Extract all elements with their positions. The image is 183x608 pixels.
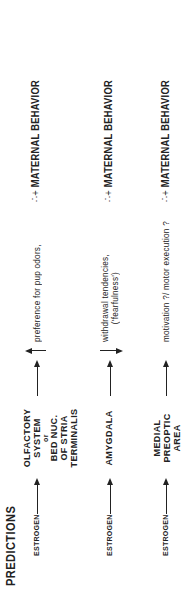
- outcome-text: ∴+ MATERNAL BEHAVIOR: [29, 80, 42, 202]
- effect-text: preference for pup odors,: [32, 244, 42, 342]
- outcome-text: ∴+ MATERNAL BEHAVIOR: [102, 80, 115, 202]
- arrow-right-icon: [166, 364, 167, 396]
- estrogen-label: ESTROGEN: [162, 514, 169, 556]
- region-olfactory-system: OLFACTORY SYSTEM or BED NUC. OF STRIA TE…: [22, 402, 79, 474]
- effect-text: withdrawal tendencies, ('fearfulness'): [100, 254, 120, 342]
- region-medial-preoptic-area: MEDIAL PREOPTIC AREA: [152, 402, 182, 474]
- outcome-text: ∴+ MATERNAL BEHAVIOR: [159, 80, 172, 202]
- estrogen-label: ESTROGEN: [33, 514, 40, 556]
- arrow-right-icon: [37, 364, 38, 396]
- arrow-right-icon: [110, 482, 111, 514]
- estrogen-label: ESTROGEN: [106, 514, 113, 556]
- therefore-plus-symbol: ∴+: [102, 190, 114, 202]
- arrow-right-icon: [110, 364, 111, 396]
- diagram-rotated: PREDICTIONS ESTROGEN OLFACTORY SYSTEM or…: [0, 0, 183, 608]
- region-amygdala: AMYGDALA: [104, 402, 114, 474]
- therefore-plus-symbol: ∴+: [159, 190, 171, 202]
- increase-arrow-icon: [30, 350, 46, 351]
- therefore-plus-symbol: ∴+: [29, 190, 41, 202]
- effect-text: motivation ?/ motor execution ?: [161, 221, 171, 342]
- arrow-right-icon: [37, 482, 38, 514]
- decrease-arrow-icon: [100, 350, 118, 351]
- arrow-right-icon: [166, 482, 167, 514]
- diagram-title: PREDICTIONS: [3, 506, 18, 586]
